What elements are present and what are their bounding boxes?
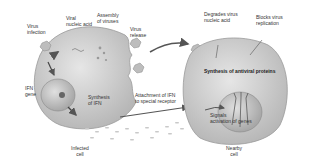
label-attachment-of-ifn: Attachment of IFN to special receptor	[135, 93, 176, 104]
label-assembly-of-viruses: Assembly of viruses	[97, 13, 119, 24]
nearby-cell	[183, 38, 287, 144]
label-line: of viruses	[97, 19, 119, 25]
virus-released-1	[130, 38, 141, 48]
infected-cell	[34, 27, 136, 129]
label-line: release	[130, 33, 146, 39]
label-blocks-virus-replication: Blocks virus replication	[256, 15, 283, 26]
label-viral-nucleic-acid: Viral nucleic acid	[66, 16, 92, 27]
label-line: infection	[27, 30, 46, 36]
label-synthesis-of-antiviral-proteins: Synthesis of antiviral proteins	[204, 69, 275, 75]
label-line: replication	[256, 21, 283, 27]
label-signals-activation-of-genes: Signals activation of genes	[210, 113, 252, 124]
caption-nearby-cell: Nearby cell	[226, 146, 242, 157]
label-degrades-virus-nucleic-acid: Degrades virus nucleic acid	[204, 12, 238, 23]
virus-released-2	[133, 63, 144, 73]
label-synthesis-of-ifn: Synthesis of IFN	[88, 95, 110, 106]
ifn-gene-spot	[59, 92, 65, 98]
label-ifn-gene: IFN gene	[25, 86, 36, 97]
label-line: nucleic acid	[66, 22, 92, 28]
label-line: of IFN	[88, 101, 110, 107]
label-virus-infection: Virus infection	[27, 24, 46, 35]
caption-line: cell	[226, 152, 242, 158]
label-line: nucleic acid	[204, 18, 238, 24]
virus-transfer-arrow	[150, 43, 188, 52]
label-line: gene	[25, 92, 36, 98]
label-line: to special receptor	[135, 99, 176, 105]
infected-nucleus	[41, 79, 75, 111]
label-line: activation of genes	[210, 119, 252, 125]
caption-line: cell	[71, 152, 89, 158]
label-virus-release: Virus release	[130, 27, 146, 38]
caption-infected-cell: Infected cell	[71, 146, 89, 157]
